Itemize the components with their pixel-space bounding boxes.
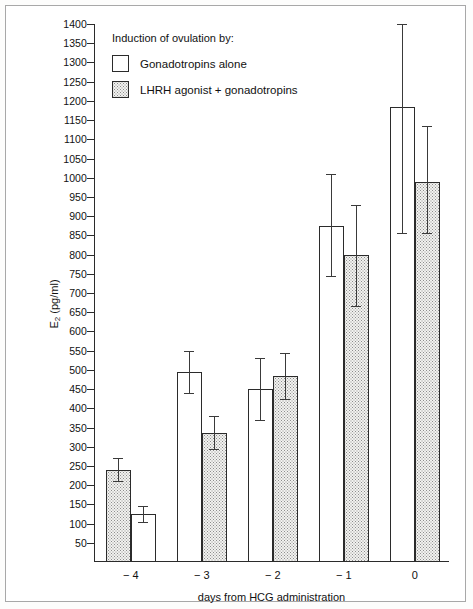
error-cap-lower	[138, 522, 148, 523]
y-tick-label: 1150	[64, 114, 87, 126]
y-tick	[87, 101, 94, 102]
y-tick-label: 1400	[63, 18, 87, 30]
error-cap-lower	[280, 399, 290, 400]
error-cap-upper	[326, 174, 336, 175]
y-tick	[87, 408, 94, 409]
error-cap-lower	[351, 306, 361, 307]
y-tick	[87, 159, 94, 160]
y-tick-label: 650	[69, 306, 87, 318]
figure-container: E2 (pg/ml) 50100150200250300350400450500…	[0, 0, 473, 609]
legend-item-lhrh-agonist-gonadotropins: LHRH agonist + gonadotropins	[112, 81, 362, 98]
error-bar	[427, 126, 428, 234]
y-tick-label: 850	[69, 229, 87, 241]
error-bar	[118, 458, 119, 481]
error-bar	[331, 174, 332, 276]
y-tick	[87, 331, 94, 332]
y-tick	[87, 351, 94, 352]
error-bar	[143, 506, 144, 521]
y-tick-label: 700	[69, 287, 87, 299]
legend-label: LHRH agonist + gonadotropins	[140, 84, 298, 96]
legend: Induction of ovulation by: Gonadotropins…	[112, 32, 362, 107]
x-tick-label: 0	[412, 569, 418, 581]
error-bar	[260, 358, 261, 419]
error-cap-lower	[184, 393, 194, 394]
y-axis-line	[94, 24, 95, 562]
error-cap-upper	[184, 351, 194, 352]
y-tick-label: 550	[69, 345, 87, 357]
y-tick-label: 100	[69, 518, 87, 530]
y-axis-title-main: E	[48, 321, 60, 328]
y-tick-label: 1200	[63, 95, 87, 107]
y-tick	[87, 120, 94, 121]
legend-title: Induction of ovulation by:	[112, 32, 362, 44]
bar	[106, 470, 131, 562]
y-tick-label: 50	[75, 537, 87, 549]
error-cap-upper	[255, 358, 265, 359]
y-tick-label: 1350	[63, 37, 87, 49]
figure-frame: E2 (pg/ml) 50100150200250300350400450500…	[5, 5, 466, 602]
y-tick	[87, 447, 94, 448]
error-cap-lower	[397, 233, 407, 234]
y-axis-title: E2 (pg/ml)	[48, 279, 62, 328]
y-tick-label: 150	[69, 498, 87, 510]
y-tick-label: 450	[69, 383, 87, 395]
y-tick	[87, 485, 94, 486]
bar	[273, 376, 298, 562]
y-tick	[87, 466, 94, 467]
y-tick	[87, 274, 94, 275]
legend-swatch-open-icon	[112, 55, 129, 72]
error-cap-lower	[255, 420, 265, 421]
y-tick-label: 200	[69, 479, 87, 491]
error-bar	[285, 353, 286, 399]
x-tick-label: − 4	[123, 569, 139, 581]
y-tick	[87, 24, 94, 25]
y-tick-label: 900	[69, 210, 87, 222]
error-cap-upper	[209, 416, 219, 417]
error-bar	[356, 205, 357, 307]
y-tick	[87, 62, 94, 63]
y-tick-label: 250	[69, 460, 87, 472]
error-cap-lower	[326, 276, 336, 277]
error-bar	[402, 24, 403, 233]
y-tick	[87, 197, 94, 198]
y-tick	[87, 524, 94, 525]
y-axis-title-sub: 2	[53, 316, 62, 320]
y-tick	[87, 543, 94, 544]
y-tick-label: 950	[69, 191, 87, 203]
error-bar	[214, 416, 215, 449]
bar	[415, 182, 440, 562]
legend-swatch-dotted-icon	[112, 81, 129, 98]
error-bar	[189, 351, 190, 393]
error-cap-lower	[422, 233, 432, 234]
error-cap-upper	[351, 205, 361, 206]
y-tick	[87, 43, 94, 44]
y-tick	[87, 370, 94, 371]
x-tick-label: − 1	[336, 569, 352, 581]
error-cap-upper	[113, 458, 123, 459]
y-tick	[87, 389, 94, 390]
error-cap-upper	[138, 506, 148, 507]
y-tick	[87, 216, 94, 217]
x-axis-title: days from HCG administration	[94, 591, 449, 603]
y-tick	[87, 255, 94, 256]
y-tick	[87, 82, 94, 83]
error-cap-upper	[397, 24, 407, 25]
x-tick-label: − 3	[194, 569, 210, 581]
y-tick	[87, 235, 94, 236]
y-tick	[87, 504, 94, 505]
error-cap-lower	[209, 449, 219, 450]
y-tick-label: 1100	[64, 133, 87, 145]
y-tick-label: 400	[69, 402, 87, 414]
x-tick-label: − 2	[265, 569, 281, 581]
y-tick-label: 750	[69, 268, 87, 280]
y-tick-label: 350	[69, 422, 87, 434]
error-cap-upper	[422, 126, 432, 127]
error-cap-lower	[113, 481, 123, 482]
y-tick-label: 800	[69, 249, 87, 261]
y-tick	[87, 139, 94, 140]
y-tick-label: 1000	[63, 172, 87, 184]
y-tick-label: 600	[69, 325, 87, 337]
y-tick-label: 1050	[63, 153, 87, 165]
y-tick-label: 1250	[63, 76, 87, 88]
y-tick	[87, 293, 94, 294]
